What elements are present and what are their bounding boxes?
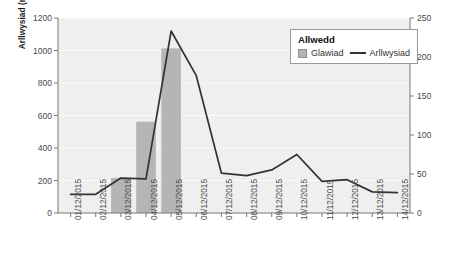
x-tick-label: 12/12/2015 xyxy=(351,179,360,220)
x-tick-label: 07/12/2015 xyxy=(225,179,234,220)
x-tick-label: 01/12/2015 xyxy=(74,179,83,220)
y-tick-label-right: 100 xyxy=(417,130,457,140)
y-tick-label-left: 800 xyxy=(12,78,52,88)
x-tick-label: 14/12/2015 xyxy=(401,179,410,220)
x-tick-label: 13/12/2015 xyxy=(376,179,385,220)
y-tick-label-right: 0 xyxy=(417,208,457,218)
legend-item-glawiad-label: Glawiad xyxy=(311,48,344,58)
y-tick-label-right: 200 xyxy=(417,52,457,62)
y-tick-label-left: 600 xyxy=(12,111,52,121)
x-tick-label: 11/12/2015 xyxy=(326,180,335,220)
y-tick-label-left: 0 xyxy=(12,208,52,218)
y-tick-label-right: 50 xyxy=(417,169,457,179)
x-tick-label: 09/12/2015 xyxy=(275,179,284,220)
legend-item-glawiad: Glawiad xyxy=(298,48,344,58)
legend-item-arllwysiad: Arllwysiad xyxy=(350,48,411,58)
x-tick-label: 10/12/2015 xyxy=(300,179,309,220)
x-tick-label: 03/12/2015 xyxy=(124,179,133,220)
discharge-rainfall-chart: Arllwysiad (metrau ciwbig yr eiliad – cu… xyxy=(0,0,476,277)
y-tick-label-left: 200 xyxy=(12,176,52,186)
y-tick-label-left: 1200 xyxy=(12,13,52,23)
chart-legend: Allwedd Glawiad Arllwysiad xyxy=(290,29,418,64)
y-tick-label-left: 1000 xyxy=(12,46,52,56)
x-tick-label: 05/12/2015 xyxy=(175,179,184,220)
y-tick-label-right: 250 xyxy=(417,13,457,23)
legend-title: Allwedd xyxy=(298,34,410,45)
legend-item-arllwysiad-label: Arllwysiad xyxy=(370,48,411,58)
x-tick-label: 08/12/2015 xyxy=(250,179,259,220)
legend-line-icon xyxy=(350,52,366,54)
x-tick-label: 06/12/2015 xyxy=(200,179,209,220)
y-tick-label-left: 400 xyxy=(12,143,52,153)
y-tick-label-right: 150 xyxy=(417,91,457,101)
legend-swatch-icon xyxy=(298,49,307,58)
x-tick-label: 02/12/2015 xyxy=(99,179,108,220)
x-tick-label: 04/12/2015 xyxy=(150,179,159,220)
